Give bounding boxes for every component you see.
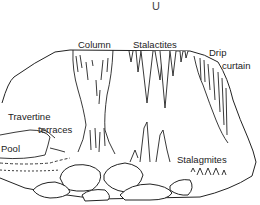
stalagmites bbox=[130, 122, 226, 175]
cave-diagram bbox=[0, 0, 260, 205]
label-drip-curtain-line2: curtain bbox=[222, 61, 251, 71]
label-travertine-line1: Travertine bbox=[8, 112, 50, 122]
label-travertine-line2: terraces bbox=[38, 125, 72, 135]
boulders bbox=[33, 163, 192, 201]
label-pool: Pool bbox=[1, 144, 20, 154]
stalactites bbox=[129, 51, 188, 108]
label-stalactites: Stalactites bbox=[133, 40, 177, 50]
label-drip-curtain-line1: Drip bbox=[209, 48, 226, 58]
label-stalagmites: Stalagmites bbox=[177, 155, 227, 165]
column bbox=[73, 50, 115, 154]
label-column: Column bbox=[78, 40, 111, 50]
